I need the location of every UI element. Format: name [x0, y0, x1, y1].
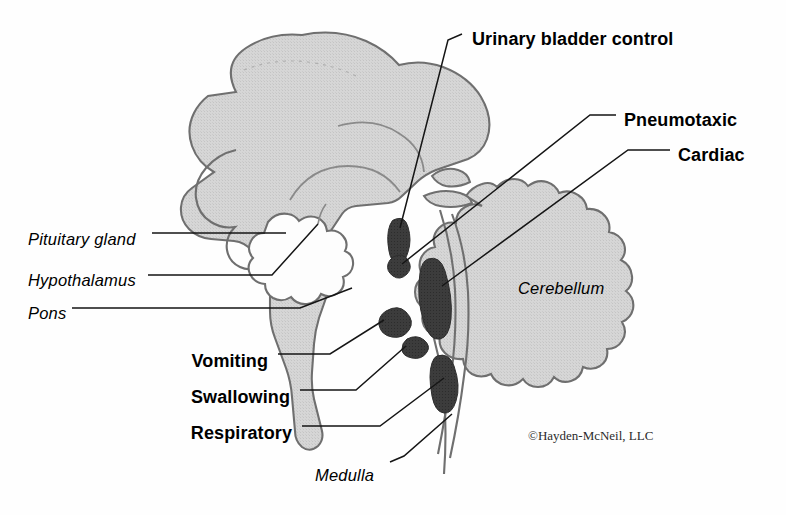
copyright-notice: ©Hayden-McNeil, LLC [528, 428, 653, 444]
pneumotaxic-nucleus[interactable] [388, 255, 411, 278]
midbrain-lobe-lower [424, 191, 472, 207]
label-hypothalamus: Hypothalamus [28, 271, 136, 290]
label-swallowing: Swallowing [191, 387, 290, 408]
label-cardiac: Cardiac [678, 145, 745, 166]
brain-diagram-svg [0, 0, 786, 515]
label-medulla: Medulla [315, 466, 374, 485]
swallowing-nucleus[interactable] [402, 337, 428, 359]
label-urinary-bladder-control: Urinary bladder control [472, 29, 673, 50]
respiratory-nucleus[interactable] [430, 355, 458, 413]
leader-medulla [390, 414, 452, 462]
leader-swallowing [300, 346, 406, 390]
label-pneumotaxic: Pneumotaxic [624, 110, 737, 131]
vomiting-nucleus[interactable] [379, 308, 412, 338]
label-vomiting: Vomiting [192, 351, 268, 372]
label-cerebellum: Cerebellum [518, 279, 604, 298]
figure-canvas: Pituitary gland Hypothalamus Pons Cerebe… [0, 0, 786, 515]
label-pituitary-gland: Pituitary gland [28, 230, 136, 249]
label-respiratory: Respiratory [191, 423, 292, 444]
midbrain-lobe-upper [432, 169, 470, 187]
leader-respiratory [302, 378, 444, 426]
label-pons: Pons [28, 304, 66, 323]
